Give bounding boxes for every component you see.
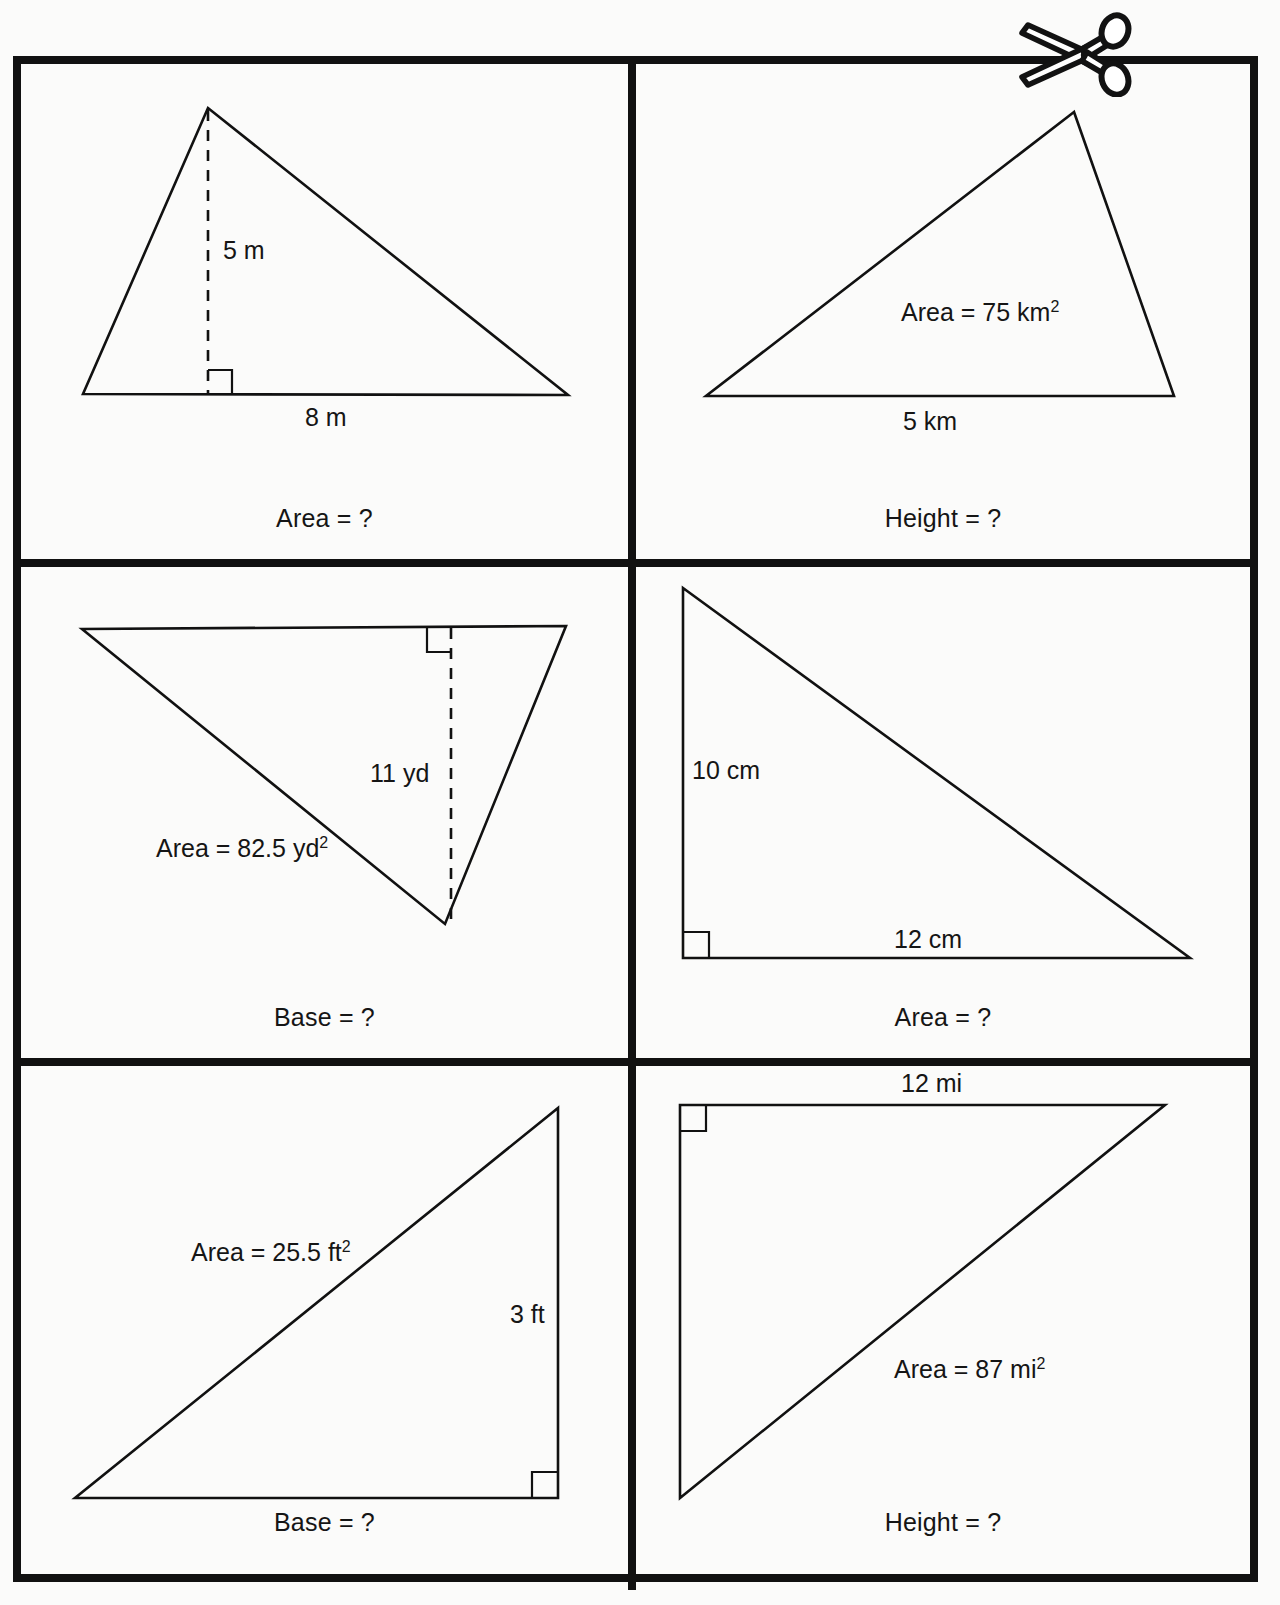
base-label: 12 cm [894, 925, 962, 953]
triangle-outline [83, 108, 568, 395]
triangle-outline [680, 1105, 1165, 1498]
card-2-caption: Height = ? [636, 504, 1250, 533]
triangle-outline [75, 1108, 558, 1498]
scissors-pivot [1081, 52, 1087, 58]
area-label: Area = 75 km2 [901, 298, 1059, 326]
right-angle-marker [208, 370, 232, 394]
scissors-icon [1012, 5, 1132, 97]
right-angle-marker [680, 1105, 706, 1131]
card-2-figure: Area = 75 km2 5 km [636, 64, 1250, 559]
card-2: Area = 75 km2 5 km Height = ? [636, 64, 1250, 559]
card-3-figure: 11 yd Area = 82.5 yd2 [21, 567, 628, 1058]
area-label: Area = 87 mi2 [894, 1355, 1045, 1383]
scissors-blade-lower [1022, 47, 1090, 85]
card-5-caption: Base = ? [21, 1508, 628, 1537]
card-5-figure: Area = 25.5 ft2 3 ft [21, 1066, 628, 1574]
base-label: 8 m [305, 403, 347, 431]
right-angle-marker [532, 1472, 558, 1498]
height-label: 3 ft [510, 1300, 545, 1328]
vertical-divider [628, 56, 636, 1590]
triangle-outline [82, 626, 566, 924]
worksheet-page: 5 m 8 m Area = ? Area = 75 km2 5 km Heig… [0, 0, 1280, 1605]
card-6: 12 mi Area = 87 mi2 Height = ? [636, 1066, 1250, 1574]
area-label: Area = 25.5 ft2 [191, 1238, 351, 1266]
base-label: 5 km [903, 407, 957, 435]
card-6-figure: 12 mi Area = 87 mi2 [636, 1066, 1250, 1574]
card-1: 5 m 8 m Area = ? [21, 64, 628, 559]
card-4-caption: Area = ? [636, 1003, 1250, 1032]
right-angle-marker [683, 932, 709, 958]
triangle-outline [706, 112, 1174, 396]
height-label: 11 yd [370, 759, 429, 787]
base-label: 12 mi [901, 1069, 962, 1097]
height-label: 5 m [223, 236, 265, 264]
card-4: 10 cm 12 cm Area = ? [636, 567, 1250, 1058]
card-1-caption: Area = ? [21, 504, 628, 533]
height-label: 10 cm [692, 756, 760, 784]
card-4-figure: 10 cm 12 cm [636, 567, 1250, 1058]
horizontal-divider-top [13, 559, 1258, 567]
card-1-figure: 5 m 8 m [21, 64, 628, 559]
card-6-caption: Height = ? [636, 1508, 1250, 1537]
card-3-caption: Base = ? [21, 1003, 628, 1032]
horizontal-divider-bottom [13, 1058, 1258, 1066]
area-label: Area = 82.5 yd2 [156, 834, 328, 862]
card-5: Area = 25.5 ft2 3 ft Base = ? [21, 1066, 628, 1574]
card-3: 11 yd Area = 82.5 yd2 Base = ? [21, 567, 628, 1058]
right-angle-marker [427, 628, 451, 652]
